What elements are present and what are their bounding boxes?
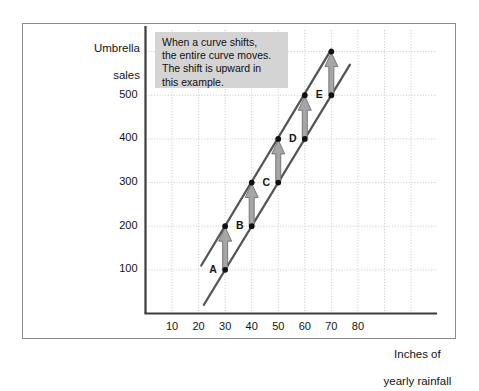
x-tick-label-40: 40 bbox=[240, 320, 264, 333]
annotation-line-1: When a curve shifts, bbox=[162, 36, 257, 48]
x-tick-label-60: 60 bbox=[293, 320, 317, 333]
y-tick-label-100: 100 bbox=[104, 262, 138, 275]
data-point-label-B: B bbox=[233, 219, 247, 231]
annotation-line-2: the entire curve moves. bbox=[162, 49, 271, 61]
x-axis-title-line1: Inches of bbox=[394, 348, 441, 360]
x-tick-label-50: 50 bbox=[266, 320, 290, 333]
y-tick-label-300: 300 bbox=[104, 175, 138, 188]
x-tick-label-30: 30 bbox=[213, 320, 237, 333]
data-point-label-D: D bbox=[286, 132, 300, 144]
annotation-line-4: this example. bbox=[162, 76, 224, 88]
x-tick-label-70: 70 bbox=[319, 320, 343, 333]
x-axis-title: Inches of yearly rainfall bbox=[356, 334, 466, 391]
data-point-label-A: A bbox=[206, 263, 220, 275]
y-tick-label-200: 200 bbox=[104, 219, 138, 232]
y-axis-title-line2: sales bbox=[113, 69, 140, 81]
annotation-line-3: The shift is upward in bbox=[162, 62, 261, 74]
y-tick-label-400: 400 bbox=[104, 131, 138, 144]
y-tick-label-500: 500 bbox=[104, 88, 138, 101]
x-tick-label-80: 80 bbox=[346, 320, 370, 333]
x-axis-title-line2: yearly rainfall bbox=[384, 375, 452, 387]
y-axis-title-line1: Umbrella bbox=[94, 42, 140, 54]
y-axis-title: Umbrella sales bbox=[60, 28, 140, 96]
annotation-callout-text: When a curve shifts, the entire curve mo… bbox=[162, 36, 288, 89]
x-tick-label-10: 10 bbox=[160, 320, 184, 333]
data-point-label-C: C bbox=[259, 176, 273, 188]
x-tick-label-20: 20 bbox=[187, 320, 211, 333]
data-point-label-E: E bbox=[312, 88, 326, 100]
